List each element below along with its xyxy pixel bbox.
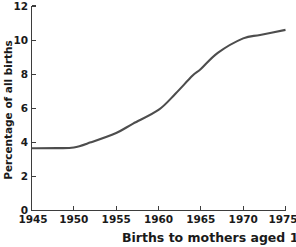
x-axis-ticks [32,206,286,211]
y-tick-label-6: 6 [21,102,28,114]
x-tick-label-1950: 1950 [59,213,88,225]
x-tick-label-1945: 1945 [18,213,47,225]
x-tick-labels: 1945 1950 1955 1960 1965 1970 1975 [18,213,296,225]
y-tick-label-8: 8 [21,68,28,80]
y-axis-ticks [32,6,37,211]
data-series-line [32,30,286,148]
y-tick-label-10: 10 [13,34,28,46]
y-tick-label-12: 12 [13,0,28,12]
x-tick-label-1970: 1970 [229,213,258,225]
x-tick-label-1955: 1955 [102,213,131,225]
line-chart: 0 2 4 6 8 10 12 1945 1950 1955 1960 1965… [0,0,296,247]
chart-figure: 0 2 4 6 8 10 12 1945 1950 1955 1960 1965… [0,0,296,247]
y-axis-title: Percentage of all births [2,40,14,180]
figure-caption: Births to mothers aged 15–19 as [122,230,296,245]
y-tick-labels: 0 2 4 6 8 10 12 [13,0,28,216]
x-tick-label-1965: 1965 [186,213,215,225]
x-tick-label-1960: 1960 [144,213,173,225]
x-tick-label-1975: 1975 [268,213,296,225]
y-tick-label-2: 2 [21,170,28,182]
y-tick-label-4: 4 [21,136,28,148]
